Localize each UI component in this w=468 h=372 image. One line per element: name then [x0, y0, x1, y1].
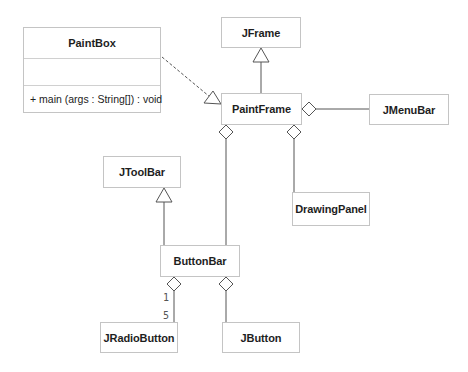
hollow-triangle-arrow-icon: [204, 91, 221, 104]
class-jbutton: JButton: [222, 322, 300, 353]
class-buttonbar: ButtonBar: [160, 245, 240, 277]
class-name: PaintBox: [24, 28, 160, 59]
class-name: JButton: [241, 332, 282, 344]
class-name: JRadioButton: [104, 332, 175, 344]
attributes-compartment: [24, 59, 160, 86]
aggregation-diamond-icon: [167, 277, 181, 291]
aggregation-diamond-icon: [219, 125, 233, 139]
hollow-triangle-arrow-icon: [253, 48, 269, 62]
class-name: DrawingPanel: [295, 203, 367, 215]
class-name: PaintFrame: [232, 103, 291, 115]
aggregation-diamond-icon: [302, 102, 316, 116]
class-paintbox: PaintBox + main (args : String[]) : void: [23, 27, 161, 113]
class-jmenubar: JMenuBar: [369, 94, 449, 125]
hollow-triangle-arrow-icon: [156, 188, 172, 202]
aggregation-diamond-icon: [219, 277, 233, 291]
class-name: ButtonBar: [174, 255, 227, 267]
class-drawingpanel: DrawingPanel: [292, 192, 370, 226]
class-jframe: JFrame: [221, 17, 301, 48]
multiplicity-source: 1: [163, 292, 169, 303]
class-name: JFrame: [242, 27, 281, 39]
class-jradiobutton: JRadioButton: [100, 322, 178, 353]
operation: + main (args : String[]) : void: [24, 86, 160, 112]
aggregation-diamond-icon: [287, 125, 301, 139]
class-paintframe: PaintFrame: [221, 93, 302, 125]
multiplicity-target: 5: [163, 310, 169, 321]
dependency-line-paintbox-paintframe: [162, 57, 210, 97]
class-jtoolbar: JToolBar: [103, 156, 181, 188]
class-name: JToolBar: [119, 166, 165, 178]
class-name: JMenuBar: [383, 104, 435, 116]
